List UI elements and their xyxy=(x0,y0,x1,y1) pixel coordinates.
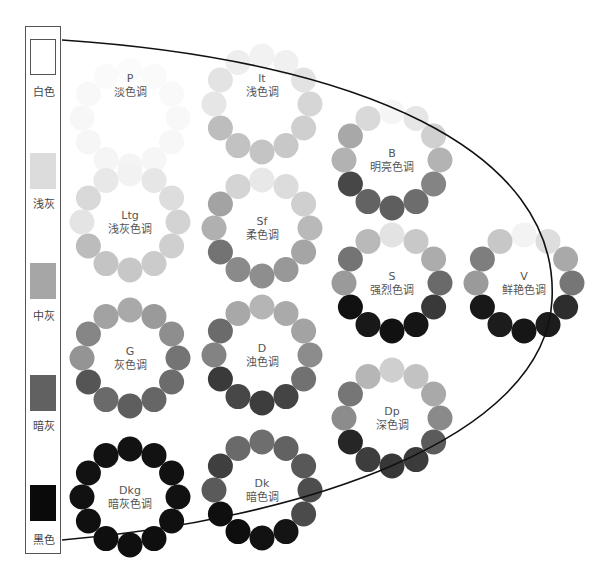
tone-dot xyxy=(421,382,446,407)
tone-label-v: V鲜艳色调 xyxy=(489,270,559,298)
tone-dot xyxy=(380,196,405,221)
tone-dot xyxy=(76,509,101,534)
tone-dot xyxy=(291,116,316,141)
tone-dot xyxy=(166,106,191,131)
swatch-label-black: 黑色 xyxy=(26,531,62,547)
tone-dot xyxy=(94,387,119,412)
tone-dot xyxy=(208,192,233,217)
tone-label-s: S强烈色调 xyxy=(357,270,427,298)
tone-dot xyxy=(338,247,363,272)
tone-dot xyxy=(250,295,275,320)
swatch-label-light-gray: 浅灰 xyxy=(26,195,62,211)
tone-dot xyxy=(118,298,143,323)
tone-dot xyxy=(142,443,167,468)
tone-dot xyxy=(142,251,167,276)
tone-code: Ltg xyxy=(95,209,165,223)
tone-dot xyxy=(428,148,453,173)
tone-dot xyxy=(76,186,101,211)
tone-dot xyxy=(250,526,275,551)
tone-dot xyxy=(118,258,143,283)
tone-dot xyxy=(94,251,119,276)
pccs-tone-diagram: 白色 浅灰 中灰 暗灰 黑色 P淡色调lt浅色调Ltg浅灰色调Sf柔色调G灰色调… xyxy=(0,0,601,576)
tone-dot xyxy=(356,229,381,254)
tone-dot xyxy=(208,116,233,141)
tone-dot xyxy=(166,346,191,371)
tone-dot xyxy=(76,130,101,155)
tone-dot xyxy=(338,124,363,149)
tone-code: Dp xyxy=(357,405,427,419)
tone-dot xyxy=(208,454,233,479)
tone-dot xyxy=(404,364,429,389)
tone-dot xyxy=(142,168,167,193)
tone-dot xyxy=(421,172,446,197)
tone-name: 浅色调 xyxy=(227,86,297,100)
tone-dot xyxy=(76,370,101,395)
tone-dot xyxy=(332,148,357,173)
tone-dot xyxy=(226,519,251,544)
tone-dot xyxy=(118,162,143,187)
tone-dot xyxy=(250,168,275,193)
tone-dot xyxy=(536,229,561,254)
tone-name: 鲜艳色调 xyxy=(489,284,559,298)
tone-dot xyxy=(159,186,184,211)
tone-dot xyxy=(421,295,446,320)
tone-name: 明亮色调 xyxy=(357,161,427,175)
tone-dot xyxy=(226,257,251,282)
tone-dot xyxy=(118,533,143,558)
tone-dot xyxy=(356,447,381,472)
tone-dot xyxy=(202,92,227,117)
tone-dot xyxy=(159,130,184,155)
tone-code: lt xyxy=(227,72,297,86)
tone-dot xyxy=(166,210,191,235)
tone-label-b: B明亮色调 xyxy=(357,147,427,175)
tone-dot xyxy=(428,406,453,431)
tone-dot xyxy=(202,478,227,503)
tone-name: 深色调 xyxy=(357,419,427,433)
tone-dot xyxy=(404,189,429,214)
tone-dot xyxy=(226,174,251,199)
tone-dot xyxy=(291,502,316,527)
tone-code: G xyxy=(95,345,165,359)
tone-dot xyxy=(291,454,316,479)
tone-dot xyxy=(488,312,513,337)
tone-dot xyxy=(291,240,316,265)
tone-ring-lt xyxy=(202,44,323,165)
swatch-label-white: 白色 xyxy=(26,83,62,99)
tone-code: B xyxy=(357,147,427,161)
tone-dot xyxy=(76,322,101,347)
tone-dot xyxy=(208,319,233,344)
tone-dot xyxy=(512,319,537,344)
swatch-white xyxy=(30,39,56,75)
tone-dot xyxy=(70,210,95,235)
tone-dot xyxy=(250,264,275,289)
tone-code: V xyxy=(489,270,559,284)
tone-dot xyxy=(70,485,95,510)
tone-dot xyxy=(356,106,381,131)
tone-name: 强烈色调 xyxy=(357,284,427,298)
tone-name: 淡色调 xyxy=(95,86,165,100)
tone-dot xyxy=(274,436,299,461)
tone-dot xyxy=(298,216,323,241)
tone-dot xyxy=(428,271,453,296)
tone-dot xyxy=(380,223,405,248)
tone-label-sf: Sf柔色调 xyxy=(227,215,297,243)
tone-name: 浅灰色调 xyxy=(95,223,165,237)
tone-dot xyxy=(208,367,233,392)
swatch-light-gray xyxy=(30,153,56,189)
tone-dot xyxy=(274,174,299,199)
tone-dot xyxy=(250,140,275,165)
tone-dot xyxy=(250,391,275,416)
tone-code: Dk xyxy=(227,477,297,491)
tone-dot xyxy=(226,384,251,409)
tone-dot xyxy=(274,257,299,282)
tone-dot xyxy=(159,370,184,395)
tone-dot xyxy=(76,234,101,259)
tone-label-p: P淡色调 xyxy=(95,72,165,100)
tone-dot xyxy=(159,509,184,534)
tone-label-dk: Dk暗色调 xyxy=(227,477,297,505)
tone-dot xyxy=(76,461,101,486)
tone-name: 暗色调 xyxy=(227,491,297,505)
tone-dot xyxy=(338,430,363,455)
tone-dot xyxy=(338,295,363,320)
tone-dot xyxy=(142,304,167,329)
